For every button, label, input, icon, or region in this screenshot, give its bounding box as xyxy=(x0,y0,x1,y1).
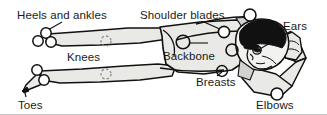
shoulder-blade-marker-side xyxy=(218,26,229,37)
upper-leg-shape xyxy=(46,28,172,46)
label-ears: Ears xyxy=(283,20,307,32)
toe-marker-lower xyxy=(39,75,49,85)
label-knees: Knees xyxy=(67,51,100,63)
leader-toes xyxy=(25,93,26,97)
toe-marker-upper xyxy=(32,65,42,75)
label-backbone: Backbone xyxy=(163,50,215,62)
anatomical-figure-illustration: Heels and ankles Shoulder blades Ears Kn… xyxy=(0,0,327,115)
ankle-marker-right xyxy=(46,37,56,47)
label-shoulder-blades: Shoulder blades xyxy=(140,9,225,21)
label-heels-and-ankles: Heels and ankles xyxy=(17,9,107,21)
label-toes: Toes xyxy=(18,99,43,111)
lower-leg-shape xyxy=(40,64,176,83)
toe-tip-dark xyxy=(22,87,29,93)
label-elbows: Elbows xyxy=(256,99,294,111)
bottom-divider xyxy=(0,114,327,115)
shoulder-blade-marker-top xyxy=(244,9,256,21)
ankle-marker-left xyxy=(33,36,43,46)
label-breasts: Breasts xyxy=(196,76,236,88)
